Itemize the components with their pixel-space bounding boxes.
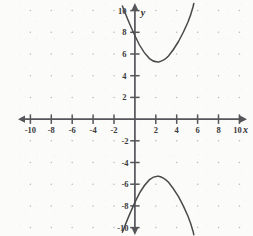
x-axis-label: x — [242, 124, 248, 135]
x-tick-label-2: 2 — [154, 125, 158, 135]
y-tick-label-6: 6 — [122, 49, 126, 59]
x-tick-label-4: 4 — [175, 125, 180, 135]
y-axis-label: y — [140, 7, 146, 18]
x-tick-label--4: -4 — [90, 125, 98, 135]
y-tick-label--2: -2 — [121, 136, 128, 146]
y-tick-label-2: 2 — [122, 92, 126, 102]
x-tick-label--2: -2 — [110, 125, 117, 135]
x-tick-label-10: 10 — [233, 125, 242, 135]
y-tick-label--4: -4 — [121, 158, 129, 168]
x-tick-label-8: 8 — [216, 125, 220, 135]
x-axis: -10 -8 -6 -4 -2 2 4 6 8 10 x — [18, 114, 248, 135]
y-tick-label-8: 8 — [122, 27, 126, 37]
coordinate-plane-graph: -10 -8 -6 -4 -2 2 4 6 8 10 x — [0, 0, 253, 236]
x-tick-label--6: -6 — [69, 125, 76, 135]
x-tick-label--10: -10 — [25, 125, 36, 135]
graph-worksheet-image: -10 -8 -6 -4 -2 2 4 6 8 10 x — [0, 0, 253, 236]
x-tick-label--8: -8 — [48, 125, 55, 135]
x-tick-label-6: 6 — [195, 125, 199, 135]
y-tick-label--6: -6 — [121, 179, 128, 189]
y-tick-label-4: 4 — [122, 71, 127, 81]
y-tick-label--8: -8 — [121, 201, 128, 211]
